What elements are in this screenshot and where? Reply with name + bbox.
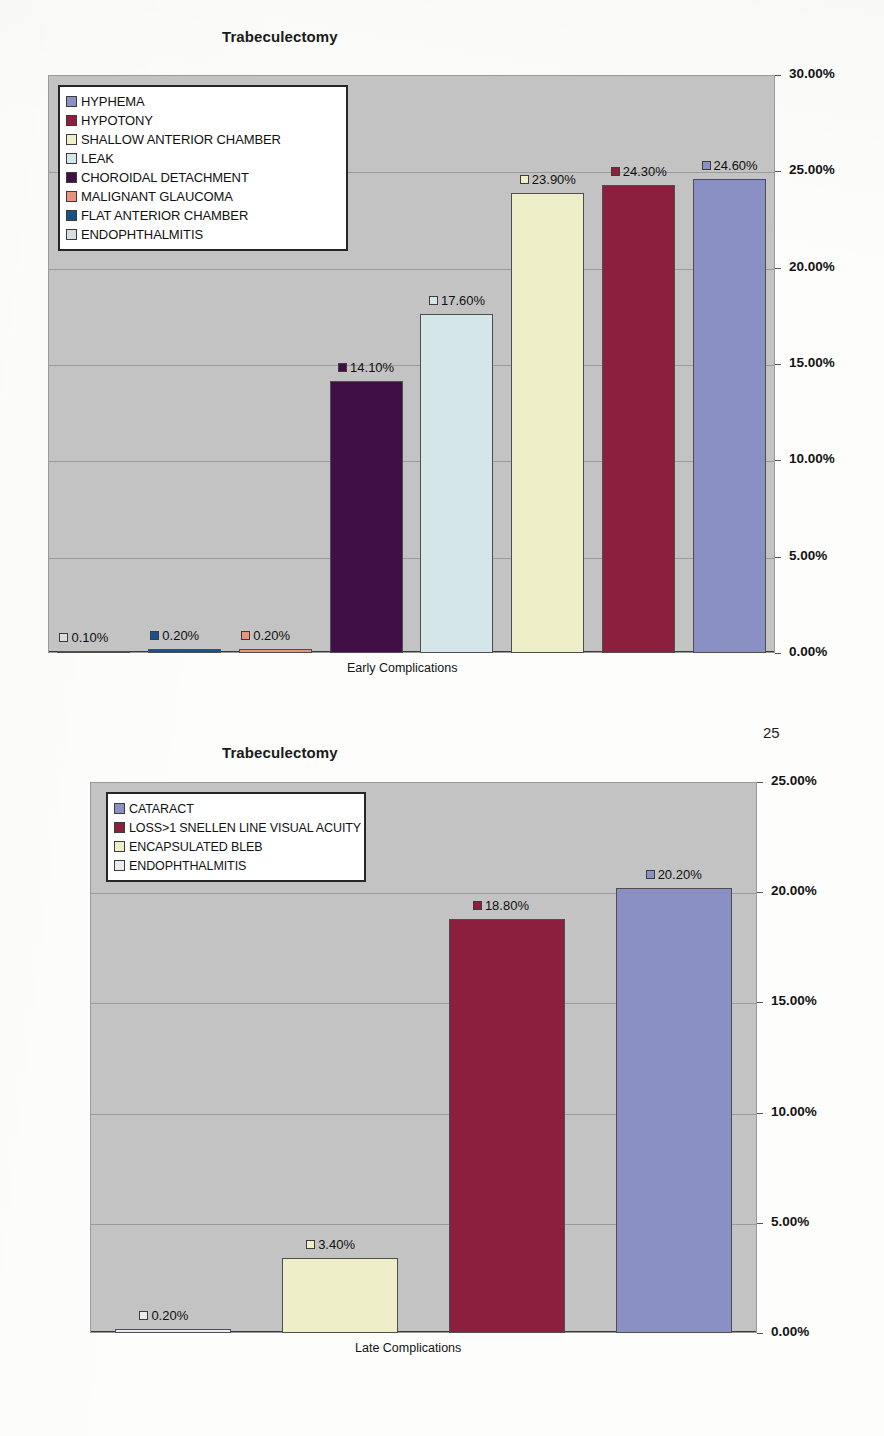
legend-item[interactable]: HYPHEMA [66, 92, 339, 111]
bar-data-label: 20.20% [646, 867, 702, 882]
legend-item[interactable]: FLAT ANTERIOR CHAMBER [66, 206, 339, 225]
y-axis-tick-label: 10.00% [771, 1104, 817, 1119]
y-axis-tick-mark [757, 892, 763, 893]
bar-data-label: 14.10% [338, 360, 394, 375]
legend-swatch-icon [66, 191, 77, 202]
y-axis-tick-mark [775, 171, 781, 172]
x-axis-label-early: Early Complications [347, 661, 457, 675]
bar-data-label: 0.20% [139, 1308, 188, 1323]
data-label-swatch-icon [611, 167, 620, 176]
legend-late[interactable]: CATARACTLOSS>1 SNELLEN LINE VISUAL ACUIT… [106, 792, 366, 882]
bar-data-label: 24.30% [611, 164, 667, 179]
bar-data-label: 18.80% [473, 898, 529, 913]
legend-item[interactable]: SHALLOW ANTERIOR CHAMBER [66, 130, 339, 149]
bar [420, 314, 493, 653]
y-axis-tick-mark [757, 782, 763, 783]
x-axis-label-late: Late Complications [355, 1341, 461, 1355]
bar [602, 185, 675, 653]
data-label-text: 20.20% [658, 867, 702, 882]
legend-swatch-icon [66, 153, 77, 164]
y-axis-tick-label: 0.00% [771, 1324, 809, 1339]
data-label-swatch-icon [306, 1240, 315, 1249]
legend-early[interactable]: HYPHEMAHYPOTONYSHALLOW ANTERIOR CHAMBERL… [58, 85, 348, 251]
legend-swatch-icon [114, 822, 125, 833]
data-label-text: 0.20% [151, 1308, 188, 1323]
data-label-swatch-icon [520, 175, 529, 184]
y-axis-tick-label: 30.00% [789, 66, 835, 81]
y-axis-tick-label: 20.00% [789, 259, 835, 274]
legend-swatch-icon [66, 229, 77, 240]
chart-early-complications: Trabeculectomy 0.00%5.00%10.00%15.00%20.… [0, 0, 884, 700]
data-label-text: 0.20% [162, 628, 199, 643]
y-axis-tick-label: 5.00% [789, 548, 827, 563]
legend-item[interactable]: MALIGNANT GLAUCOMA [66, 187, 339, 206]
legend-item-label: ENDOPHTHALMITIS [81, 227, 203, 242]
data-label-swatch-icon [139, 1311, 148, 1320]
bar-data-label: 0.10% [59, 630, 108, 645]
legend-item-label: LEAK [81, 151, 114, 166]
y-axis-tick-label: 10.00% [789, 451, 835, 466]
data-label-swatch-icon [702, 161, 711, 170]
data-label-text: 24.30% [623, 164, 667, 179]
legend-item[interactable]: CHOROIDAL DETACHMENT [66, 168, 339, 187]
legend-swatch-icon [114, 803, 125, 814]
bar-data-label: 0.20% [150, 628, 199, 643]
bar-data-label: 3.40% [306, 1237, 355, 1252]
legend-item-label: ENCAPSULATED BLEB [129, 840, 263, 854]
bar [115, 1329, 231, 1333]
bar [330, 381, 403, 653]
bar [282, 1258, 398, 1333]
bar-data-label: 0.20% [241, 628, 290, 643]
legend-item-label: HYPOTONY [81, 113, 153, 128]
bar [449, 919, 565, 1333]
legend-swatch-icon [66, 115, 77, 126]
bar [148, 649, 221, 653]
y-axis-tick-mark [757, 1113, 763, 1114]
y-axis-tick-label: 5.00% [771, 1214, 809, 1229]
legend-swatch-icon [66, 172, 77, 183]
bar-data-label: 17.60% [429, 293, 485, 308]
bar [511, 193, 584, 653]
chart-title-early: Trabeculectomy [222, 28, 338, 45]
y-axis-tick-label: 25.00% [789, 162, 835, 177]
y-axis-tick-label: 15.00% [789, 355, 835, 370]
y-axis-tick-mark [775, 653, 781, 654]
data-label-swatch-icon [646, 870, 655, 879]
legend-item-label: HYPHEMA [81, 94, 145, 109]
y-axis-tick-mark [757, 1333, 763, 1334]
legend-item[interactable]: ENDOPHTHALMITIS [114, 856, 357, 875]
y-axis-tick-mark [757, 1223, 763, 1224]
legend-item-label: FLAT ANTERIOR CHAMBER [81, 208, 248, 223]
data-label-text: 0.20% [253, 628, 290, 643]
legend-item[interactable]: HYPOTONY [66, 111, 339, 130]
legend-swatch-icon [66, 134, 77, 145]
y-axis-tick-label: 15.00% [771, 993, 817, 1008]
data-label-text: 17.60% [441, 293, 485, 308]
bar [616, 888, 732, 1333]
data-label-swatch-icon [150, 631, 159, 640]
legend-item[interactable]: ENCAPSULATED BLEB [114, 837, 357, 856]
legend-item[interactable]: CATARACT [114, 799, 357, 818]
bar [57, 651, 130, 653]
chart-late-complications: Trabeculectomy CATARACTLOSS>1 SNELLEN LI… [0, 700, 884, 1436]
legend-item[interactable]: LOSS>1 SNELLEN LINE VISUAL ACUITY [114, 818, 357, 837]
y-axis-tick-label: 25.00% [771, 773, 817, 788]
legend-item[interactable]: LEAK [66, 149, 339, 168]
data-label-swatch-icon [429, 296, 438, 305]
legend-item[interactable]: ENDOPHTHALMITIS [66, 225, 339, 244]
data-label-text: 14.10% [350, 360, 394, 375]
legend-swatch-icon [114, 841, 125, 852]
y-axis-tick-label: 0.00% [789, 644, 827, 659]
bar-data-label: 24.60% [702, 158, 758, 173]
legend-item-label: ENDOPHTHALMITIS [129, 859, 246, 873]
data-label-text: 23.90% [532, 172, 576, 187]
legend-item-label: CHOROIDAL DETACHMENT [81, 170, 249, 185]
bar [693, 179, 766, 653]
legend-item-label: CATARACT [129, 802, 194, 816]
legend-swatch-icon [66, 96, 77, 107]
y-axis-tick-mark [757, 1002, 763, 1003]
y-axis-tick-mark [775, 557, 781, 558]
data-label-text: 0.10% [71, 630, 108, 645]
legend-item-label: LOSS>1 SNELLEN LINE VISUAL ACUITY [129, 821, 361, 835]
y-axis-tick-label: 20.00% [771, 883, 817, 898]
